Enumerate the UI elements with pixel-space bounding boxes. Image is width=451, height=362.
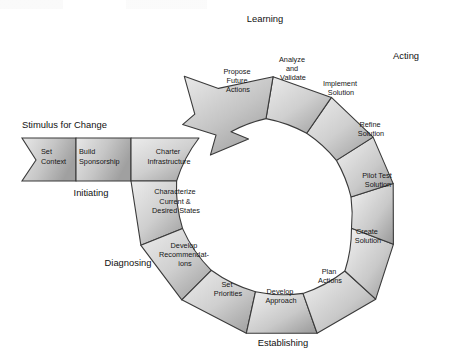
ring-label-develop-approach: Develop Approach [265,287,296,305]
ring-label-characterize-current-desired-states: Characterize Current & Desired States [152,187,200,215]
phase-label-acting: Acting [393,50,419,61]
change-cycle-diagram: Propose Future Actions Analyze and Valid… [0,0,451,362]
ring-label-implement-solution: Implement Solution [323,79,359,97]
phase-label-diagnosing: Diagnosing [105,257,152,268]
ring-label-create-solution: Create Solution [355,227,381,245]
ring-label-plan-actions: Plan Actions [318,267,342,285]
cycle-diagram-canvas: Propose Future Actions Analyze and Valid… [0,0,451,362]
ring-label-propose-future-actions: Propose Future Actions [223,67,252,94]
phase-label-establishing: Establishing [258,337,309,348]
ring-label-analyze-and-validate: Analyze and Validate [279,55,307,82]
phase-label-learning: Learning [247,13,284,24]
ring-label-pilot-test-solution: Pilot Test Solution [362,171,394,189]
ring-label-refine-solution: Refine Solution [358,120,384,138]
stimulus-for-change-label: Stimulus for Change [22,119,107,130]
phase-label-initiating: Initiating [74,187,109,198]
